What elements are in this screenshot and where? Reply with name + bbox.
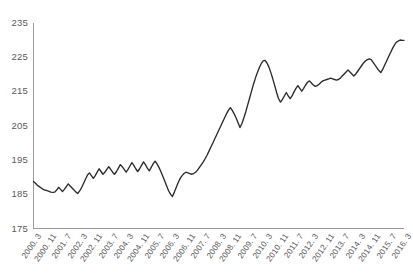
y-tick-235: 235 — [2, 17, 28, 28]
y-tick-185: 185 — [2, 188, 28, 199]
y-tick-195: 195 — [2, 154, 28, 165]
y-tick-205: 205 — [2, 120, 28, 131]
y-tick-175: 175 — [2, 223, 28, 234]
data-series-line — [34, 40, 405, 197]
y-tick-215: 215 — [2, 85, 28, 96]
y-tick-225: 225 — [2, 51, 28, 62]
chart-axes — [34, 23, 405, 229]
